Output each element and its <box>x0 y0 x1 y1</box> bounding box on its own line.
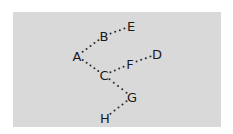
nodes-group: ABCDEFGH <box>73 19 162 126</box>
edge-dot <box>113 82 115 84</box>
edges-group <box>82 27 152 114</box>
node-E: E <box>127 19 135 34</box>
edge-dot <box>118 107 120 109</box>
edge-F-D <box>136 55 152 62</box>
edge-dot <box>123 27 125 29</box>
edge-dot <box>82 51 84 53</box>
edge-dot <box>82 59 84 61</box>
edge-G-H <box>110 100 128 114</box>
node-C: C <box>99 68 108 83</box>
edge-C-G <box>109 78 128 93</box>
edge-dot <box>114 110 116 112</box>
edge-B-E <box>110 27 126 34</box>
edge-dot <box>140 59 142 61</box>
edge-dot <box>119 29 121 31</box>
edge-dot <box>90 65 92 67</box>
edge-dot <box>121 103 123 105</box>
node-D: D <box>152 47 162 62</box>
edge-dot <box>114 69 116 71</box>
edge-dot <box>121 88 123 90</box>
edge-A-B <box>82 39 100 53</box>
edge-dot <box>93 67 95 69</box>
edge-dot <box>86 62 88 64</box>
edge-dot <box>109 71 111 73</box>
edge-dot <box>110 33 112 35</box>
edge-dot <box>145 57 147 59</box>
node-H: H <box>100 111 110 126</box>
edge-A-C <box>82 59 100 72</box>
edge-dot <box>86 48 88 50</box>
node-F: F <box>126 57 133 72</box>
edge-dot <box>109 78 111 80</box>
edge-dot <box>136 61 138 63</box>
edge-dot <box>114 31 116 33</box>
edge-dot <box>93 42 95 44</box>
edge-C-F <box>109 66 124 74</box>
edge-dot <box>117 85 119 87</box>
tree-diagram: ABCDEFGH <box>0 0 233 134</box>
edge-dot <box>90 45 92 47</box>
edge-dot <box>123 66 125 68</box>
node-B: B <box>100 29 109 44</box>
edge-dot <box>118 68 120 70</box>
node-G: G <box>127 90 137 105</box>
node-A: A <box>73 49 82 64</box>
